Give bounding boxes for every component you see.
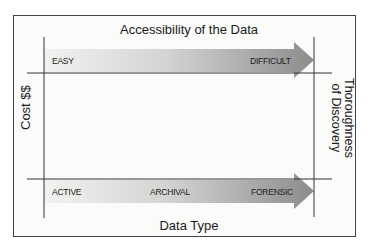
thoroughness-line-2: of Discovery: [329, 78, 342, 158]
cost-axis-label: Cost $$: [18, 85, 33, 130]
accessibility-title: Accessibility of the Data: [0, 22, 372, 37]
data-type-title: Data Type: [0, 218, 372, 233]
archival-label: ARCHIVAL: [150, 186, 190, 197]
forensic-label: FORENSIC: [251, 186, 293, 197]
diagram-graphics: [0, 0, 372, 249]
thoroughness-axis-label: Thoroughness of Discovery: [329, 78, 355, 158]
difficult-label: DIFFICULT: [250, 55, 291, 66]
thoroughness-line-1: Thoroughness: [342, 78, 355, 158]
easy-label: EASY: [52, 55, 74, 66]
active-label: ACTIVE: [52, 186, 81, 197]
